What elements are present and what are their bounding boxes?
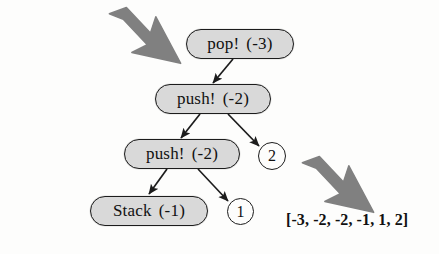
- node-push-2-b[interactable]: push!(-2): [124, 139, 240, 169]
- node-push-2-a[interactable]: push!(-2): [155, 84, 271, 114]
- pointer-arrow-pointer-top-left: [106, 6, 184, 68]
- leaf-leaf-1[interactable]: 1: [227, 198, 254, 225]
- node-label: push!: [146, 144, 185, 164]
- pointer-arrow-pointer-bottom-right: [299, 155, 377, 217]
- leaf-leaf-2[interactable]: 2: [258, 142, 286, 170]
- bolt-arrow-icon: [109, 8, 180, 64]
- leaf-value: 1: [237, 203, 245, 221]
- leaf-value: 2: [268, 147, 276, 165]
- node-stack-1[interactable]: Stack(-1): [90, 196, 208, 226]
- node-argument: (-2): [192, 144, 218, 164]
- node-argument: (-1): [159, 201, 185, 221]
- node-label: push!: [177, 89, 216, 109]
- node-argument: (-3): [246, 34, 272, 54]
- node-label: pop!: [207, 34, 239, 54]
- node-label: Stack: [113, 201, 152, 221]
- result-list-text: [-3, -2, -2, -1, 1, 2]: [286, 211, 408, 229]
- node-layer: pop!(-3)push!(-2)push!(-2)Stack(-1)21[-3…: [0, 0, 439, 254]
- node-argument: (-2): [223, 89, 249, 109]
- bolt-arrow-icon: [302, 157, 373, 213]
- node-pop-3[interactable]: pop!(-3): [186, 29, 294, 59]
- diagram-canvas: pop!(-3)push!(-2)push!(-2)Stack(-1)21[-3…: [0, 0, 439, 254]
